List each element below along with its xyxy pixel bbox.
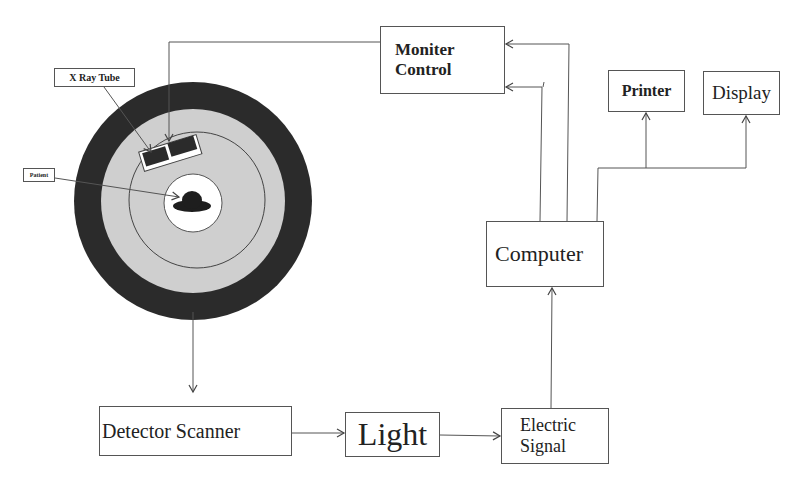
- electric-signal-box: Electric Signal: [501, 408, 609, 464]
- patient-text: Patient: [30, 172, 48, 178]
- computer-to-monitor-line-2: [506, 44, 569, 221]
- detector-scanner-text: Detector Scanner: [102, 420, 240, 443]
- light-to-electric-line: [440, 435, 500, 436]
- arrow-tip-stub: [543, 82, 544, 87]
- computer-to-monitor-line-1: [506, 87, 542, 221]
- patient-label: Patient: [23, 168, 55, 182]
- xray-tube-text: X Ray Tube: [69, 72, 120, 83]
- ct-gantry: [74, 82, 312, 320]
- computer-box: Computer: [486, 221, 604, 287]
- display-text: Display: [712, 82, 771, 104]
- light-text: Light: [358, 416, 427, 453]
- monitor-control-box: Moniter Control: [380, 26, 505, 94]
- printer-text: Printer: [622, 82, 672, 100]
- xray-tube-label: X Ray Tube: [54, 68, 135, 87]
- computer-text: Computer: [495, 241, 583, 267]
- electric-signal-line1: Electric: [520, 415, 576, 436]
- monitor-control-line1: Moniter: [395, 40, 454, 60]
- detector-scanner-box: Detector Scanner: [99, 406, 292, 456]
- printer-box: Printer: [608, 70, 685, 112]
- monitor-control-line2: Control: [395, 60, 454, 80]
- electric-to-computer-line: [551, 288, 552, 408]
- computer-to-outputs-bus: [597, 168, 746, 221]
- electric-signal-line2: Signal: [520, 436, 576, 457]
- display-box: Display: [703, 71, 780, 115]
- light-box: Light: [345, 412, 440, 457]
